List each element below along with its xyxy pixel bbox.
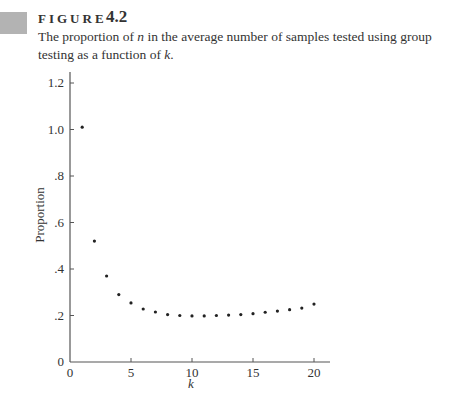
data-point — [227, 313, 230, 316]
x-tick-label: 0 — [67, 365, 74, 380]
data-point — [203, 314, 206, 317]
x-tick-label: 20 — [308, 365, 321, 380]
data-point — [93, 240, 96, 243]
y-tick-label: .8 — [54, 168, 64, 183]
data-point — [166, 313, 169, 316]
x-axis-title: k — [188, 376, 194, 391]
scatter-chart: 0.2.4.6.81.01.205101520 Proportion k — [0, 0, 468, 416]
y-tick-label: .6 — [54, 215, 64, 230]
axes: 0.2.4.6.81.01.205101520 — [48, 72, 330, 380]
data-point — [300, 306, 303, 309]
y-tick-label: .4 — [54, 261, 64, 276]
data-point — [288, 308, 291, 311]
x-tick-label: 15 — [247, 365, 260, 380]
data-points — [81, 126, 316, 318]
data-point — [129, 301, 132, 304]
data-point — [178, 314, 181, 317]
y-tick-label: 1.2 — [48, 75, 64, 90]
x-tick-label: 5 — [128, 365, 135, 380]
data-point — [251, 312, 254, 315]
data-point — [276, 309, 279, 312]
data-point — [81, 126, 84, 129]
y-axis-title: Proportion — [32, 187, 47, 243]
data-point — [190, 314, 193, 317]
data-point — [312, 303, 315, 306]
data-point — [264, 311, 267, 314]
data-point — [154, 310, 157, 313]
data-point — [117, 293, 120, 296]
data-point — [239, 313, 242, 316]
data-point — [142, 307, 145, 310]
data-point — [215, 314, 218, 317]
data-point — [105, 274, 108, 277]
y-tick-label: .2 — [54, 308, 64, 323]
y-tick-label: 0 — [58, 354, 65, 369]
y-tick-label: 1.0 — [48, 122, 64, 137]
